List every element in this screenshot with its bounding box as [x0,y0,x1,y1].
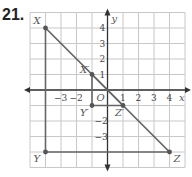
y-tick-label: 2 [100,54,106,64]
x-axis-label: x [179,92,185,103]
y-tick-label: −2 [95,116,108,126]
point-label-z-prime: Z′ [114,107,125,118]
point-label-x: X [33,15,42,26]
x-tick-label: 2 [136,93,142,103]
x-tick-label: 1 [120,93,126,103]
point-x [43,26,48,31]
origin-label: O [97,92,105,103]
point-label-z: Z [173,153,182,164]
point-y [43,150,48,155]
coordinate-graph: xyO−3−212344321−2−3XYZX′Y′Z′ [0,0,192,177]
y-tick-label: −3 [95,132,109,142]
point-x-prime [90,72,95,77]
x-tick-label: 4 [167,93,173,103]
y-tick-label: 1 [100,70,106,80]
x-tick-label: −3 [54,93,68,103]
point-y-prime [90,103,95,108]
x-tick-label: −2 [70,93,83,103]
x-axis-arrow-left-icon [24,87,30,93]
point-z [167,150,172,155]
point-label-y-prime: Y′ [80,107,90,118]
x-axis-arrow-right-icon [185,87,191,93]
y-tick-label: 3 [100,39,106,49]
x-tick-label: 3 [151,93,157,103]
point-label-y: Y [34,153,42,164]
y-axis-label: y [111,13,118,24]
y-tick-label: 4 [100,23,106,33]
point-label-x-prime: X′ [79,64,90,75]
